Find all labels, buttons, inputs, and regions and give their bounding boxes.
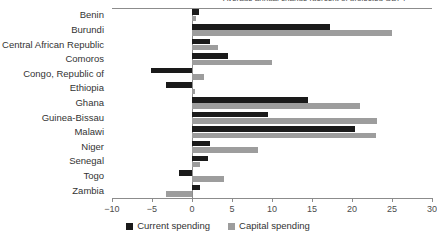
legend-label: Current spending (137, 220, 210, 231)
bar-current-spending (192, 97, 308, 103)
x-axis-tick-label: −5 (147, 204, 157, 214)
x-axis-tick (152, 198, 153, 202)
category-label: Togo (83, 171, 104, 181)
legend-swatch (126, 223, 133, 230)
bar-capital-spending (192, 16, 196, 22)
category-label: Congo, Republic of (23, 69, 104, 79)
x-axis-tick (272, 198, 273, 202)
bar-capital-spending (192, 176, 224, 182)
bar-capital-spending (192, 30, 392, 36)
bar-row: Comoros (112, 52, 432, 67)
bar-current-spending (179, 170, 192, 176)
bar-row: Ghana (112, 96, 432, 111)
legend-item: Capital spending (228, 220, 310, 231)
category-label: Guinea-Bissau (42, 113, 104, 123)
bar-row: Niger (112, 140, 432, 155)
bar-capital-spending (192, 118, 377, 124)
x-axis-tick-label: 10 (267, 204, 277, 214)
x-axis-tick-label: −10 (104, 204, 119, 214)
bar-row: Benin (112, 8, 432, 23)
bar-current-spending (192, 141, 210, 147)
bar-current-spending (166, 82, 192, 88)
bar-current-spending (192, 156, 208, 162)
bar-capital-spending (166, 191, 192, 197)
bar-row: Togo (112, 169, 432, 184)
bar-current-spending (192, 112, 268, 118)
category-label: Ethiopia (70, 83, 104, 93)
x-axis-tick (192, 198, 193, 202)
x-axis-tick (312, 198, 313, 202)
category-label: Comoros (65, 54, 104, 64)
x-axis-tick-label: 25 (387, 204, 397, 214)
bar-current-spending (192, 39, 210, 45)
x-axis-tick-label: 30 (427, 204, 437, 214)
x-axis-tick-label: 15 (307, 204, 317, 214)
x-axis-tick (392, 198, 393, 202)
legend-swatch (228, 223, 235, 230)
category-label: Burundi (71, 25, 104, 35)
bar-capital-spending (192, 162, 200, 168)
plot-area: −10−5051015202530 BeninBurundiCentral Af… (112, 8, 432, 198)
category-label: Central African Republic (2, 40, 104, 50)
x-axis-tick (232, 198, 233, 202)
bar-current-spending (192, 185, 200, 191)
bar-capital-spending (192, 74, 204, 80)
x-axis-tick-label: 5 (229, 204, 234, 214)
bar-current-spending (192, 126, 355, 132)
bar-row: Congo, Republic of (112, 66, 432, 81)
bar-capital-spending (192, 133, 376, 139)
x-axis-tick (112, 198, 113, 202)
bar-row: Burundi (112, 23, 432, 38)
bar-row: Malawi (112, 125, 432, 140)
bar-row: Guinea-Bissau (112, 110, 432, 125)
category-label: Zambia (72, 186, 104, 196)
x-axis-tick-label: 20 (347, 204, 357, 214)
bar-current-spending (192, 24, 330, 30)
category-label: Ghana (75, 98, 104, 108)
bar-row: Zambia (112, 183, 432, 198)
x-axis-tick (352, 198, 353, 202)
bar-current-spending (192, 9, 199, 15)
bar-row: Ethiopia (112, 81, 432, 96)
chart-legend: Current spendingCapital spending (0, 220, 436, 231)
category-label: Niger (81, 142, 104, 152)
bar-capital-spending (192, 147, 258, 153)
category-label: Senegal (69, 156, 104, 166)
category-label: Malawi (74, 127, 104, 137)
bar-capital-spending (192, 89, 195, 95)
legend-label: Capital spending (239, 220, 310, 231)
bar-current-spending (151, 68, 192, 74)
legend-item: Current spending (126, 220, 210, 231)
chart-title: Average annual change (percent of projec… (192, 0, 436, 1)
bar-capital-spending (192, 103, 360, 109)
x-axis-tick (432, 198, 433, 202)
x-axis-tick-label: 0 (189, 204, 194, 214)
bar-current-spending (192, 53, 228, 59)
bar-row: Senegal (112, 154, 432, 169)
bar-row: Central African Republic (112, 37, 432, 52)
category-label: Benin (80, 10, 104, 20)
bar-capital-spending (192, 45, 218, 51)
bar-capital-spending (192, 60, 272, 66)
